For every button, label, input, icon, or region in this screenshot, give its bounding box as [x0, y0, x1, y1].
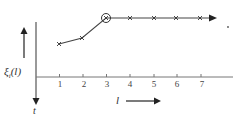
y-axis-label: ξi(l)	[4, 66, 21, 80]
l-increase-arrow-icon	[126, 98, 161, 105]
data-series	[57, 14, 217, 47]
y-label-arg: (l)	[11, 65, 21, 77]
xi-increase-arrow-icon	[21, 27, 28, 58]
x-axis-label: l	[116, 95, 119, 106]
tick-label-3: 3	[105, 80, 110, 89]
diagram-svg	[0, 0, 244, 117]
series-continue-arrow-icon	[209, 15, 217, 22]
dot-mark	[227, 26, 229, 28]
diagram: ξi(l) t l 1 2 3 4 5 6 7	[0, 0, 244, 117]
tick-label-6: 6	[175, 80, 180, 89]
tick-label-1: 1	[58, 80, 63, 89]
tick-label-2: 2	[82, 80, 87, 89]
l-axis	[36, 74, 233, 77]
tick-label-5: 5	[152, 80, 157, 89]
t-axis	[33, 22, 40, 105]
x-markers	[57, 16, 202, 46]
t-axis-arrow-icon	[33, 98, 40, 105]
tick-label-4: 4	[128, 80, 133, 89]
tick-label-7: 7	[200, 80, 205, 89]
t-axis-label: t	[33, 106, 36, 116]
